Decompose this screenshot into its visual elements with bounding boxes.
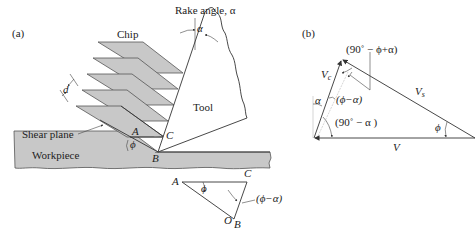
alpha-label: α	[315, 94, 321, 106]
ninety-minus-alpha-label: (90˚ − α )	[335, 116, 378, 129]
inset-triangle: A C O B ϕ (ϕ−α)	[171, 167, 283, 230]
inset-point-b: B	[234, 218, 241, 230]
rake-angle-label: Rake angle, α	[175, 4, 236, 16]
rake-alpha: α	[197, 22, 203, 34]
phi-label-b: ϕ	[435, 121, 441, 133]
workpiece-label: Workpiece	[32, 149, 79, 161]
vc-label: Vc	[321, 68, 332, 82]
phi-minus-alpha-label: (ϕ−α)	[336, 93, 363, 106]
inset-point-o: O	[224, 214, 232, 226]
panel-a-label: (a)	[12, 27, 25, 40]
orthogonal-cutting-diagram: (a) Tool α Rake angle, α Chip	[0, 0, 476, 231]
inset-point-a: A	[171, 175, 179, 187]
chip-label: Chip	[117, 28, 139, 40]
vs-label: Vs	[415, 85, 425, 99]
panel-b-label: (b)	[302, 27, 315, 40]
point-b: B	[152, 152, 159, 164]
v-label: V	[393, 141, 401, 153]
phi-label: ϕ	[130, 138, 136, 150]
inset-phi: ϕ	[201, 182, 207, 194]
point-c: C	[166, 129, 174, 141]
tool-label: Tool	[193, 101, 213, 113]
top-angle-label: (90˚ − ϕ+α)	[346, 43, 398, 56]
point-a: A	[131, 125, 139, 137]
chip	[76, 42, 183, 137]
d-label: d	[63, 83, 69, 95]
shear-plane-label: Shear plane	[22, 128, 74, 140]
inset-angle-label: (ϕ−α)	[256, 192, 283, 205]
panel-a: (a) Tool α Rake angle, α Chip	[12, 4, 283, 230]
panel-b: (b) (90˚ − ϕ+α) Vc Vs V α (ϕ−α) (90˚ − α…	[302, 27, 475, 153]
inset-point-c: C	[244, 167, 252, 179]
